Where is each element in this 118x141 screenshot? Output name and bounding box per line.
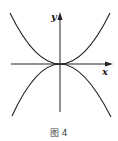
- y-axis-arrow-icon: [58, 12, 63, 20]
- figure-caption: 图 4: [50, 128, 68, 138]
- x-axis-label: x: [101, 66, 109, 77]
- figure-4: y x 图 4: [0, 0, 118, 141]
- downward-curve: [12, 64, 111, 117]
- y-axis: [58, 12, 63, 112]
- y-axis-label: y: [50, 11, 58, 22]
